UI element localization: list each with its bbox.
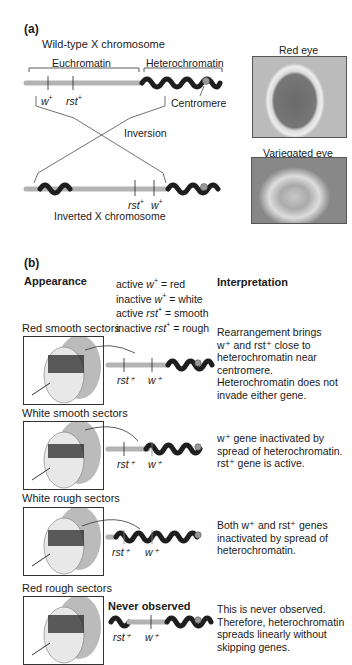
gene-w-label: w⁺: [145, 631, 159, 643]
interpretation-red-rough: This is never observed. Therefore, heter…: [217, 603, 344, 653]
chromosome-red-rough: [0, 0, 352, 665]
gene-rst-label: rst⁺: [113, 631, 131, 643]
